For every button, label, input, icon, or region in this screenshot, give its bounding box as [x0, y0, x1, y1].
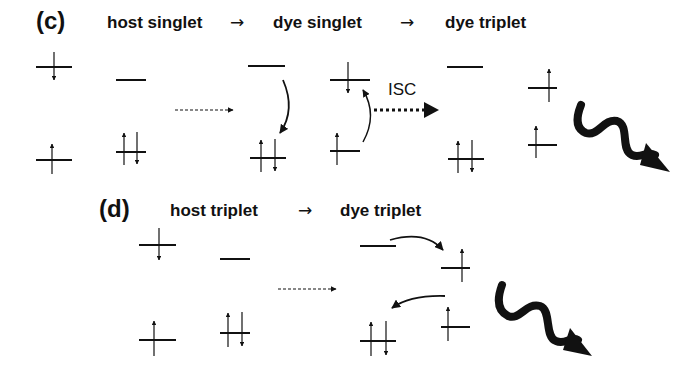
dye-singlet-orbital-right [330, 62, 371, 165]
host-singlet-orbital-left [36, 52, 72, 174]
dye-singlet-orbital-left [248, 66, 289, 172]
dye-triplet-orbital-right-d [392, 249, 470, 341]
host-triplet-orbital-left [139, 228, 176, 356]
dye-triplet-orbital-left [447, 67, 484, 173]
host-triplet-orbital-right [220, 259, 250, 347]
wavy-emission-arrow-d [499, 285, 592, 356]
energy-level-diagram [0, 0, 698, 376]
host-singlet-orbital-right [116, 80, 146, 165]
wavy-emission-arrow [577, 105, 670, 172]
dye-triplet-orbital-right [528, 69, 557, 158]
